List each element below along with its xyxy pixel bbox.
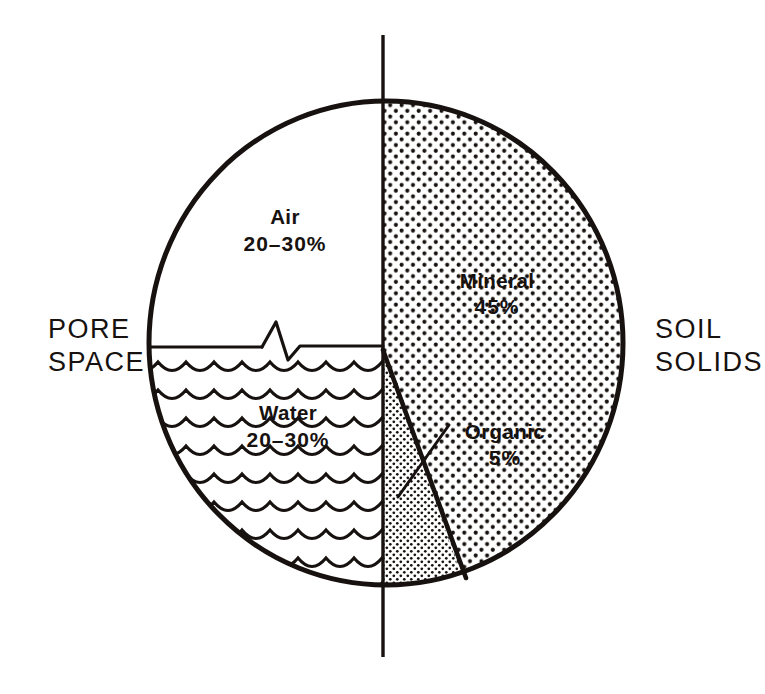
air-region-value: 20–30% [243,232,326,255]
soil-solids-label-line2: SOLIDS [655,347,763,377]
organic-region-name: Organic [465,420,545,443]
air-region-name: Air [270,205,300,228]
mineral-region-value: 45% [474,295,519,318]
soil-pie-chart: PORE SPACE SOIL SOLIDS Air 20–30% Water … [0,0,765,694]
mineral-region-name: Mineral [460,269,535,292]
soil-composition-diagram: PORE SPACE SOIL SOLIDS Air 20–30% Water … [0,0,765,694]
pore-space-label-line1: PORE [48,314,131,344]
pore-space-label-line2: SPACE [48,347,145,377]
soil-solids-label-line1: SOIL [655,314,723,344]
water-region-name: Water [259,401,317,424]
organic-region-value: 5% [489,446,521,469]
water-region-value: 20–30% [246,428,329,451]
